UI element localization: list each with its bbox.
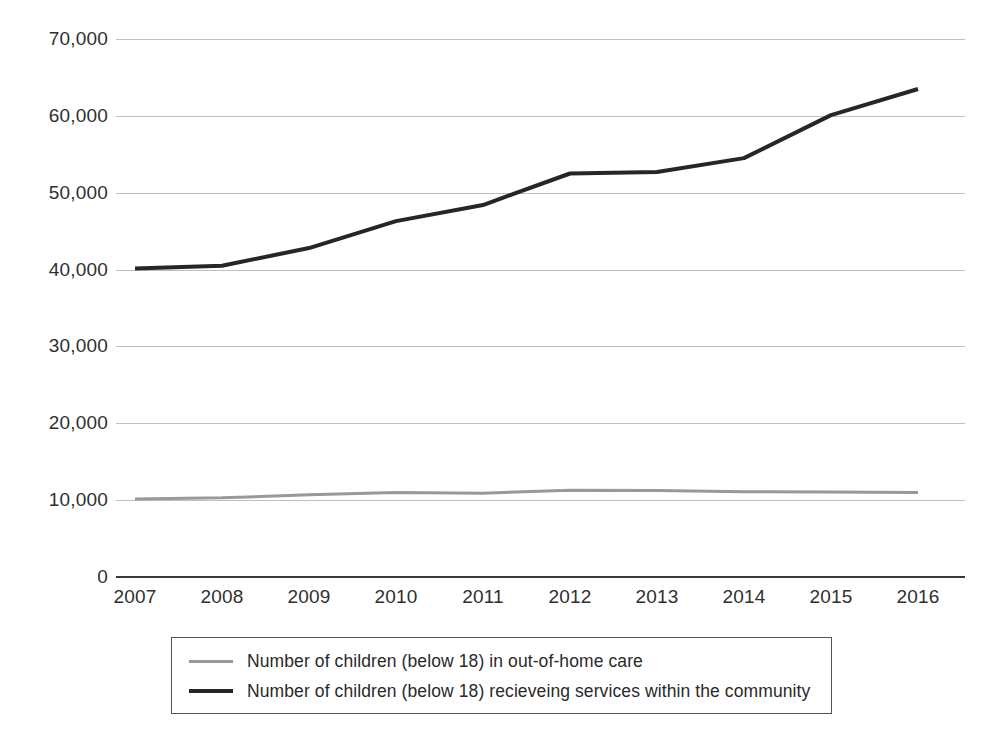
gridline	[116, 39, 965, 40]
plot-area	[116, 39, 965, 577]
y-axis-tick-label: 30,000	[12, 336, 108, 355]
y-axis-tick-label: 10,000	[12, 490, 108, 509]
x-axis-tick-label: 2012	[548, 586, 591, 608]
legend-swatch-icon	[189, 689, 233, 693]
x-axis-tick-label: 2008	[200, 586, 243, 608]
x-axis-line	[116, 576, 965, 578]
x-axis-tick-labels: 2007200820092010201120122013201420152016	[0, 586, 984, 616]
gridline	[116, 270, 965, 271]
y-axis-tick-label: 60,000	[12, 106, 108, 125]
x-axis-tick-label: 2016	[896, 586, 939, 608]
legend-item-label: Number of children (below 18) in out-of-…	[247, 651, 643, 671]
x-axis-tick-label: 2015	[809, 586, 852, 608]
legend-item-community-services[interactable]: Number of children (below 18) recieveing…	[189, 680, 810, 702]
x-axis-tick-label: 2011	[462, 586, 504, 608]
legend-swatch-icon	[189, 660, 233, 663]
y-axis-tick-label: 20,000	[12, 413, 108, 432]
gridline	[116, 423, 965, 424]
legend-item-out-of-home-care[interactable]: Number of children (below 18) in out-of-…	[189, 650, 643, 672]
gridline	[116, 193, 965, 194]
x-axis-tick-label: 2013	[635, 586, 678, 608]
legend-item-label: Number of children (below 18) recieveing…	[247, 681, 810, 701]
x-axis-tick-label: 2007	[113, 586, 156, 608]
y-axis-tick-label: 70,000	[12, 29, 108, 48]
line-chart: 010,00020,00030,00040,00050,00060,00070,…	[0, 0, 984, 750]
y-axis-tick-label: 0	[12, 567, 108, 586]
y-axis-tick-label: 50,000	[12, 183, 108, 202]
gridline	[116, 500, 965, 501]
x-axis-tick-label: 2010	[374, 586, 417, 608]
y-axis-tick-labels: 010,00020,00030,00040,00050,00060,00070,…	[0, 0, 108, 750]
gridline	[116, 346, 965, 347]
legend: Number of children (below 18) in out-of-…	[171, 637, 832, 714]
gridline	[116, 116, 965, 117]
x-axis-tick-label: 2009	[287, 586, 330, 608]
y-axis-tick-label: 40,000	[12, 260, 108, 279]
x-axis-tick-label: 2014	[722, 586, 765, 608]
